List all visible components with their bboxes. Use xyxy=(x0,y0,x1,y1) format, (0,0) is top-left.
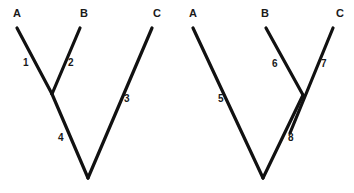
right-branch-label-5: 5 xyxy=(218,94,224,104)
left-branch-label-1: 1 xyxy=(23,58,29,68)
right-branch-label-7: 7 xyxy=(321,59,327,69)
figure-canvas: A B C 1 2 3 4 A B C 5 6 7 8 xyxy=(0,0,354,193)
left-taxon-label-c: C xyxy=(153,8,161,19)
right-branch-label-6: 6 xyxy=(272,59,278,69)
right-tree-branches xyxy=(193,28,333,178)
left-taxon-label-b: B xyxy=(80,8,88,19)
right-branch-8 xyxy=(263,95,303,178)
left-tree-branches xyxy=(17,28,152,178)
right-taxon-label-b: B xyxy=(261,8,269,19)
left-branch-label-3: 3 xyxy=(124,94,130,104)
left-branch-label-4: 4 xyxy=(58,133,64,143)
left-branch-label-2: 2 xyxy=(68,58,74,68)
tree-diagram-svg xyxy=(0,0,354,193)
right-branch-label-8: 8 xyxy=(288,133,294,143)
left-branch-2 xyxy=(52,28,80,94)
right-taxon-label-c: C xyxy=(336,8,344,19)
right-taxon-label-a: A xyxy=(189,8,197,19)
right-branch-5 xyxy=(193,28,263,178)
left-branch-3 xyxy=(88,28,152,178)
left-taxon-label-a: A xyxy=(13,8,21,19)
